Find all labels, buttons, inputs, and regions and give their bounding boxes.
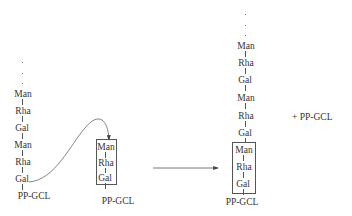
transfer-curve-arrow: [29, 119, 109, 182]
connector-arrows: [0, 0, 352, 216]
